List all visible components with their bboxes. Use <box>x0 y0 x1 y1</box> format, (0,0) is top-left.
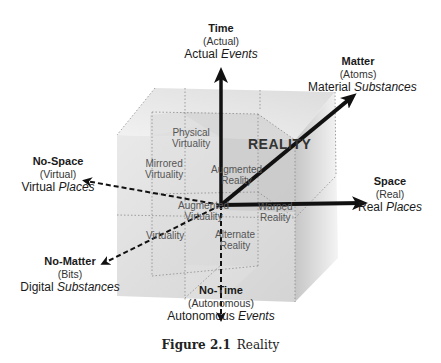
reality-cube-figure: Time (Actual) Actual Events Matter (Atom… <box>0 0 441 363</box>
cell-augmented-reality: AugmentedReality <box>211 164 262 186</box>
figure-caption: Figure 2.1Reality <box>0 338 441 352</box>
cell-alternate-reality: AlternateReality <box>215 229 255 251</box>
no-space-description: Virtual Places <box>8 181 108 194</box>
cell-augmented-virtuality: AugmentedVirtuality <box>178 200 229 222</box>
no-space-title: No-Space <box>8 155 108 168</box>
no-space-label: No-Space (Virtual) Virtual Places <box>8 155 108 194</box>
cube-body <box>117 88 338 302</box>
no-matter-description: Digital Substances <box>20 281 120 294</box>
no-matter-title: No-Matter <box>20 255 120 268</box>
cell-virtuality: Virtuality <box>146 230 184 241</box>
figure-title: Reality <box>237 338 280 352</box>
space-title: Space <box>350 175 430 188</box>
reality-label: REALITY <box>248 136 311 152</box>
figure-number: Figure 2.1 <box>162 338 231 352</box>
cell-warped-reality: WarpedReality <box>258 201 293 223</box>
space-label: Space (Real) Real Places <box>350 175 430 214</box>
time-title: Time <box>171 22 271 35</box>
time-label: Time (Actual) Actual Events <box>171 22 271 61</box>
matter-description: Material Substances <box>308 81 408 94</box>
no-time-title: No-Time <box>166 284 276 297</box>
no-matter-label: No-Matter (Bits) Digital Substances <box>20 255 120 294</box>
time-description: Actual Events <box>171 48 271 61</box>
matter-label: Matter (Atoms) Material Substances <box>308 55 408 94</box>
no-time-label: No-Time (Autonomous) Autonomous Events <box>166 284 276 323</box>
cell-physical-virtuality: PhysicalVirtuality <box>172 127 210 149</box>
matter-title: Matter <box>308 55 408 68</box>
cell-mirrored-virtuality: MirroredVirtuality <box>145 158 183 180</box>
space-description: Real Places <box>350 201 430 214</box>
no-time-description: Autonomous Events <box>166 310 276 323</box>
